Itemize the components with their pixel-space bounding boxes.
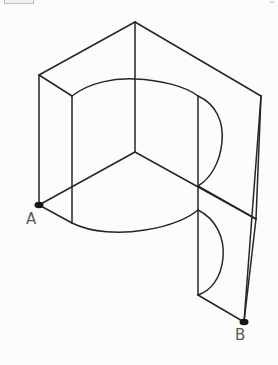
curve-lower-semicircle-cut [198, 210, 223, 295]
point-b-marker [240, 319, 249, 325]
edge-apex-to-right-top [135, 22, 261, 96]
technical-line-drawing [0, 0, 278, 365]
edge-bottom-inner-to-b [198, 295, 244, 322]
edge-center-to-point-a [39, 152, 135, 205]
point-a-label: A [26, 212, 37, 227]
figure-canvas: A B [0, 0, 278, 365]
point-b-label: B [235, 328, 246, 343]
edge-a-to-left-bottom-inner [39, 205, 72, 223]
point-a-marker [35, 202, 44, 208]
edge-right-outer-to-b [244, 96, 261, 322]
edge-apex-to-left-top [39, 22, 135, 75]
curve-lower-rim-arc [72, 210, 198, 232]
edge-inner-mid-to-right-mid [198, 186, 256, 219]
curve-upper-semicircle-cut [198, 96, 222, 186]
solid-wireframe [39, 22, 261, 322]
edge-left-top-short [39, 75, 72, 96]
